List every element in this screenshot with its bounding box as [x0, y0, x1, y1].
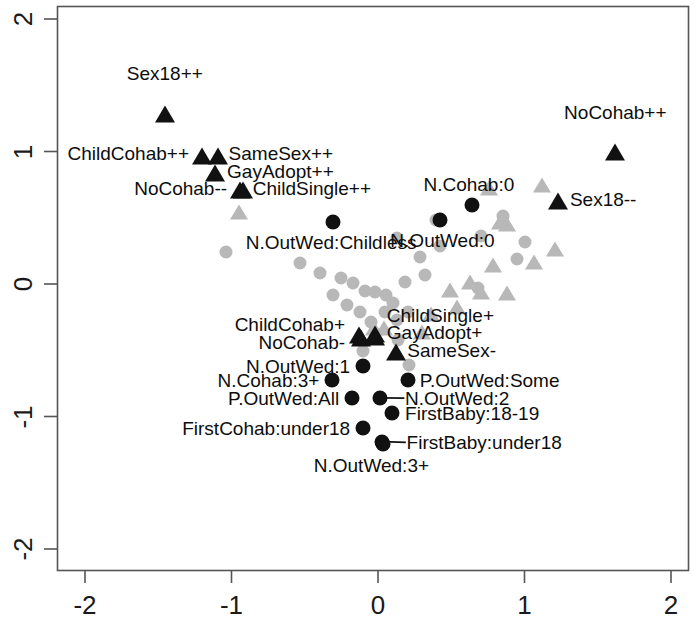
data-point-triangle — [548, 193, 568, 210]
y-tick-label: 0 — [8, 277, 39, 291]
point-label: NoCohab- — [258, 332, 345, 351]
point-label: FirstCohab:under18 — [182, 418, 350, 437]
point-label: FirstBaby:under18 — [407, 432, 562, 451]
point-label: Sex18++ — [127, 64, 203, 83]
x-tick-label: -2 — [73, 590, 96, 621]
background-point-circle — [518, 235, 531, 248]
point-label: NoCohab-- — [134, 178, 227, 197]
data-point-circle — [324, 373, 339, 388]
background-point-triangle — [533, 178, 551, 193]
point-label: ChildCohab++ — [68, 144, 189, 163]
x-tick-label: 0 — [371, 590, 385, 621]
background-point-circle — [347, 276, 360, 289]
y-tick-label: -1 — [8, 405, 39, 428]
point-label: N.OutWed:3+ — [314, 455, 429, 474]
y-tick-label: 2 — [8, 12, 39, 26]
background-point-circle — [369, 285, 382, 298]
point-label: N.Cohab:0 — [423, 174, 514, 193]
background-point-triangle — [441, 283, 459, 298]
point-label: Sex18-- — [570, 190, 637, 209]
data-point-circle — [375, 436, 390, 451]
background-point-triangle — [230, 204, 248, 219]
point-label: FirstBaby:18-19 — [405, 404, 539, 423]
data-point-triangle — [208, 147, 228, 164]
point-label: NoCohab++ — [564, 102, 666, 121]
y-tick-label: 1 — [8, 144, 39, 158]
background-point-circle — [399, 276, 412, 289]
data-point-triangle — [233, 181, 253, 198]
data-point-triangle — [605, 144, 625, 161]
background-point-circle — [353, 306, 366, 319]
point-label: SameSex- — [407, 341, 496, 360]
background-point-circle — [327, 288, 340, 301]
data-point-circle — [355, 420, 370, 435]
data-point-triangle — [386, 344, 406, 361]
data-point-triangle — [155, 105, 175, 122]
background-point-triangle — [546, 242, 564, 257]
data-point-circle — [355, 359, 370, 374]
background-point-circle — [219, 246, 232, 259]
point-label: ChildSingle++ — [253, 178, 371, 197]
background-point-circle — [314, 266, 327, 279]
background-point-triangle — [472, 285, 490, 300]
background-point-circle — [414, 250, 427, 263]
data-point-circle — [384, 406, 399, 421]
background-point-triangle — [498, 286, 516, 301]
background-point-circle — [294, 256, 307, 269]
x-tick-label: 2 — [664, 590, 678, 621]
background-point-circle — [341, 299, 354, 312]
background-point-triangle — [525, 254, 543, 269]
background-point-triangle — [484, 258, 502, 273]
data-point-circle — [464, 197, 479, 212]
data-point-circle — [433, 213, 448, 228]
plot-frame — [0, 0, 694, 625]
point-label: P.OutWed:All — [228, 388, 339, 407]
background-point-circle — [334, 272, 347, 285]
point-label: GayAdopt+ — [387, 322, 483, 341]
background-point-circle — [511, 253, 524, 266]
data-point-circle — [325, 214, 340, 229]
scatter-plot-figure: -2-1012-2-1012N.OutWed:ChildlessN.Cohab:… — [0, 0, 694, 625]
data-point-triangle — [365, 328, 385, 345]
x-tick-label: 1 — [517, 590, 531, 621]
data-point-circle — [344, 390, 359, 405]
x-tick-label: -1 — [220, 590, 243, 621]
point-label: N.OutWed:0 — [390, 231, 494, 250]
background-point-triangle — [498, 216, 516, 231]
data-point-circle — [401, 373, 416, 388]
y-tick-label: -2 — [8, 537, 39, 560]
data-point-circle — [372, 390, 387, 405]
background-point-circle — [418, 269, 431, 282]
